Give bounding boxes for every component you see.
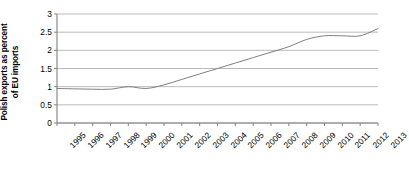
y-axis-tick-label: 1 <box>26 82 52 92</box>
y-axis-tick-label: 3 <box>26 9 52 19</box>
x-axis-tick-label: 2006 <box>264 130 284 150</box>
plot-canvas <box>57 14 378 123</box>
y-axis-tick-label: 0 <box>26 118 52 128</box>
x-axis-tick-label: 2004 <box>228 130 248 150</box>
x-axis-tick-label: 2011 <box>353 130 373 150</box>
plot-area <box>57 14 378 123</box>
y-axis-tick-label: 2.5 <box>26 27 52 37</box>
x-axis-tick-label: 2008 <box>299 130 319 150</box>
x-axis-tick-label: 2003 <box>210 130 230 150</box>
x-axis-tick-labels: 1995199619971998199920002001200220032004… <box>57 124 378 176</box>
x-axis-tick-label: 1997 <box>103 130 123 150</box>
x-axis-tick-label: 1995 <box>67 130 87 150</box>
x-axis-tick-label: 1998 <box>121 130 141 150</box>
x-axis-tick-label: 2005 <box>246 130 266 150</box>
x-axis-tick-label: 2010 <box>335 130 355 150</box>
x-axis-tick-label: 2013 <box>388 130 408 150</box>
y-axis-tick-label: 2 <box>26 45 52 55</box>
y-axis-tick-label: 0.5 <box>26 100 52 110</box>
x-axis-tick-label: 2002 <box>192 130 212 150</box>
y-axis-tick-labels: 00.511.522.53 <box>26 8 52 129</box>
y-axis-tick-label: 1.5 <box>26 64 52 74</box>
x-axis-tick-label: 1996 <box>85 130 105 150</box>
x-axis-tick-label: 2000 <box>157 130 177 150</box>
x-axis-tick-label: 1999 <box>139 130 159 150</box>
x-axis-tick-label: 2009 <box>317 130 337 150</box>
x-axis-tick-label: 2001 <box>174 130 194 150</box>
x-axis-tick-label: 2012 <box>371 130 391 150</box>
x-axis-tick-label: 2007 <box>281 130 301 150</box>
data-series-line <box>57 29 378 90</box>
